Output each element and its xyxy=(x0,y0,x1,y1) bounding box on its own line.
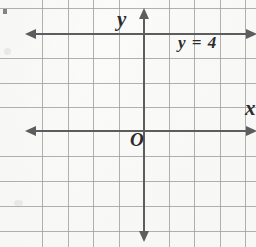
gridline-vertical xyxy=(42,0,43,247)
line-y-equals-4-arrow-left xyxy=(25,29,36,39)
origin-label: O xyxy=(130,130,144,149)
grid-lines xyxy=(0,0,256,247)
x-axis-arrow-right xyxy=(246,126,256,136)
gridline-vertical xyxy=(169,0,170,247)
gridline-horizontal xyxy=(0,58,256,59)
gridline-horizontal xyxy=(0,231,256,232)
gridline-vertical xyxy=(68,0,69,247)
y-axis-arrow-down xyxy=(139,231,149,242)
equation-label: y = 4 xyxy=(178,34,217,51)
gridline-vertical xyxy=(93,0,94,247)
gridline-horizontal xyxy=(0,206,256,207)
gridline-horizontal xyxy=(0,156,256,157)
gridline-horizontal xyxy=(0,107,256,108)
scan-speck xyxy=(3,9,7,14)
gridline-horizontal xyxy=(0,181,256,182)
y-axis-line xyxy=(143,16,145,234)
x-axis-arrow-left xyxy=(25,126,36,136)
gridline-horizontal xyxy=(0,8,256,9)
line-y-equals-4 xyxy=(32,33,250,35)
x-axis-label: x xyxy=(245,98,256,119)
y-axis-label: y xyxy=(117,9,126,30)
gridline-horizontal xyxy=(0,83,256,84)
gridline-vertical xyxy=(220,0,221,247)
y-axis-arrow-up xyxy=(139,8,149,19)
graph-figure: y x O y = 4 xyxy=(0,0,256,247)
line-y-equals-4-arrow-right xyxy=(246,29,256,39)
gridline-vertical xyxy=(119,0,120,247)
